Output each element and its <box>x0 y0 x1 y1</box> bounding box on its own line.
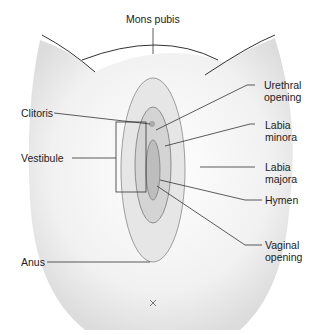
label-labia-majora: Labia majora <box>265 161 297 185</box>
opening-shape <box>146 140 160 200</box>
label-clitoris: Clitoris <box>21 107 53 119</box>
label-anus: Anus <box>21 256 45 268</box>
diagram-root: Mons pubis Urethral opening Clitoris Lab… <box>0 0 323 335</box>
label-labia-minora: Labia minora <box>265 119 297 143</box>
label-vestibule: Vestibule <box>21 152 64 164</box>
label-hymen: Hymen <box>265 194 298 206</box>
label-vaginal-opening: Vaginal opening <box>265 239 302 263</box>
label-mons-pubis: Mons pubis <box>126 13 180 25</box>
label-urethral-opening: Urethral opening <box>264 79 301 103</box>
